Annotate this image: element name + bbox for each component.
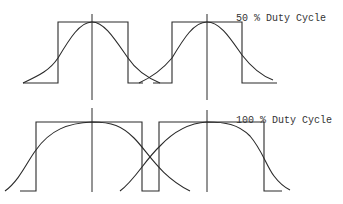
gaussian-curve-bottom-1 xyxy=(5,122,190,191)
diagram-canvas xyxy=(0,0,343,204)
duty-cycle-diagram: 50 % Duty Cycle 100 % Duty Cycle xyxy=(0,0,343,204)
label-100-duty-cycle: 100 % Duty Cycle xyxy=(236,116,332,126)
panel-top xyxy=(23,14,277,100)
label-50-duty-cycle: 50 % Duty Cycle xyxy=(236,14,326,24)
gaussian-curve-top-2 xyxy=(139,22,273,83)
